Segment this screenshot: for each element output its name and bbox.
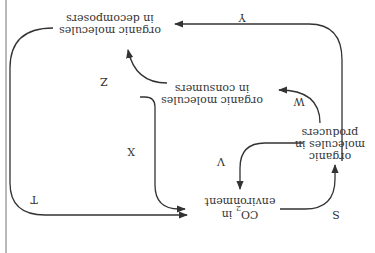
rotated-diagram-group: CO2 in environment organic molecules in … — [10, 11, 365, 221]
label-t: T — [30, 193, 38, 206]
label-z: Z — [100, 75, 108, 88]
arrow-v — [240, 143, 303, 189]
producers-line3: producers — [301, 126, 358, 139]
label-y: Y — [238, 11, 247, 24]
arrow-t — [10, 28, 187, 215]
co2-line2: environment — [204, 195, 275, 208]
node-producers: organic molecules in producers — [295, 126, 365, 163]
co2-suffix: in — [222, 208, 236, 221]
node-consumers: organic molecules in consumers — [161, 82, 263, 107]
consumers-line2: in consumers — [174, 82, 249, 95]
arrow-s — [280, 165, 335, 209]
co2-text: CO — [241, 208, 258, 221]
node-co2-environment: CO2 in environment — [204, 195, 275, 221]
label-w: W — [293, 95, 305, 108]
node-decomposers: organic molecules in decomposers — [59, 12, 161, 37]
carbon-cycle-diagram: CO2 in environment organic molecules in … — [0, 0, 375, 253]
decomposers-line2: in decomposers — [66, 12, 154, 25]
label-s: S — [332, 208, 340, 221]
label-v: V — [216, 155, 226, 168]
arrow-z — [128, 50, 167, 83]
diagram-canvas: CO2 in environment organic molecules in … — [0, 0, 375, 253]
left-border-rule — [5, 0, 7, 253]
label-x: X — [127, 145, 135, 158]
arrow-x — [140, 97, 185, 209]
